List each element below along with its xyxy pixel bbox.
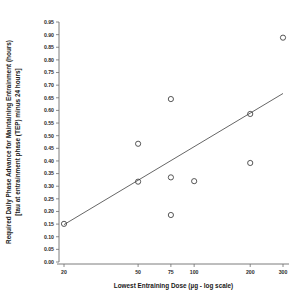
y-tick-label: 0.70 [44, 82, 54, 88]
y-tick-label: 0.30 [44, 183, 54, 189]
y-tick-label: 0.45 [44, 145, 54, 151]
x-tick-label: 75 [168, 269, 174, 275]
y-tick-label: 0.85 [44, 44, 54, 50]
y-tick-label: 0.90 [44, 32, 54, 38]
y-tick-label: 0.60 [44, 107, 54, 113]
x-tick-label: 20 [61, 269, 67, 275]
data-point [192, 179, 197, 184]
y-tick-label: 0.50 [44, 133, 54, 139]
regression-line [64, 93, 283, 224]
x-axis: 205075100200300 [57, 264, 289, 275]
y-tick-label: 0.35 [44, 170, 54, 176]
y-tick-label: 0.55 [44, 120, 54, 126]
data-point [280, 35, 285, 40]
chart-canvas: 0.000.050.100.150.200.250.300.350.400.45… [0, 0, 301, 305]
y-tick-label: 0.00 [44, 259, 54, 265]
data-point [168, 212, 173, 217]
y-tick-label: 0.65 [44, 95, 54, 101]
x-tick-label: 100 [190, 269, 199, 275]
scatter-plot-figure: 0.000.050.100.150.200.250.300.350.400.45… [0, 0, 301, 305]
data-point [168, 96, 173, 101]
x-tick-label: 300 [279, 269, 288, 275]
y-tick-label: 0.80 [44, 57, 54, 63]
y-tick-label: 0.75 [44, 69, 54, 75]
data-point [248, 160, 253, 165]
x-axis-title: Lowest Entraining Dose (µg - log scale) [114, 282, 233, 290]
data-point [168, 175, 173, 180]
y-tick-label: 0.25 [44, 196, 54, 202]
y-tick-label: 0.40 [44, 158, 54, 164]
y-tick-label: 0.20 [44, 208, 54, 214]
y-axis-title-line1: Required Daily Phase Advance for Maintai… [5, 40, 13, 244]
axis-titles: Lowest Entraining Dose (µg - log scale)R… [5, 40, 233, 290]
data-points-group [61, 35, 285, 226]
y-tick-label: 0.05 [44, 246, 54, 252]
y-tick-label: 0.10 [44, 234, 54, 240]
x-tick-label: 200 [246, 269, 255, 275]
data-point [136, 141, 141, 146]
y-tick-label: 0.95 [44, 19, 54, 25]
y-axis: 0.000.050.100.150.200.250.300.350.400.45… [44, 19, 59, 265]
y-tick-label: 0.15 [44, 221, 54, 227]
x-tick-label: 50 [135, 269, 141, 275]
y-axis-title-line2: [tau at entrainment phase (TEP) minus 24… [14, 68, 22, 215]
